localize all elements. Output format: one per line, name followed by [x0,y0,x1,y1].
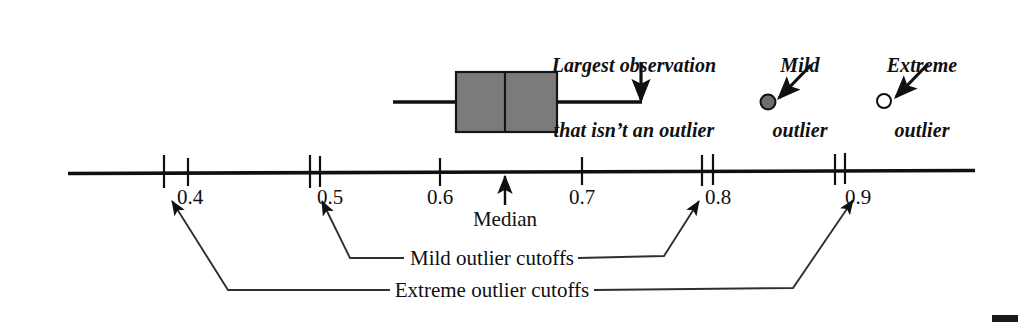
axis-tick-label-0-8: 0.8 [686,186,750,209]
extreme-cutoff-leader-right [594,200,853,290]
largest-observation-line-2: that isn’t an outlier [528,120,740,142]
extreme-outlier-line-1: Extreme [858,55,986,77]
extreme-cutoff-leader-left [172,201,390,290]
extreme-outlier-line-2: outlier [858,120,986,142]
mild-outlier-line-1: Mild [748,55,852,77]
page-corner-mark [992,315,1018,322]
extreme-outlier-callout: Extreme outlier [858,12,986,185]
mild-cutoff-leader-right [578,201,699,258]
largest-observation-callout: Largest observation that isn’t an outlie… [528,12,740,185]
mild-outlier-line-2: outlier [748,120,852,142]
boxplot-figure: Largest observation that isn’t an outlie… [0,0,1020,326]
extreme-outlier-cutoffs-label: Extreme outlier cutoffs [388,279,596,302]
axis-tick-label-0-9: 0.9 [826,186,890,209]
axis-tick-label-0-6: 0.6 [408,186,472,209]
axis-tick-label-0-7: 0.7 [550,186,614,209]
mild-outlier-callout: Mild outlier [748,12,852,185]
mild-outlier-cutoffs-label: Mild outlier cutoffs [404,247,580,270]
axis-tick-label-0-4: 0.4 [158,186,222,209]
axis-tick-label-0-5: 0.5 [298,186,362,209]
median-label: Median [450,208,560,231]
mild-cutoff-leader-left [322,201,404,258]
largest-observation-line-1: Largest observation [528,55,740,77]
